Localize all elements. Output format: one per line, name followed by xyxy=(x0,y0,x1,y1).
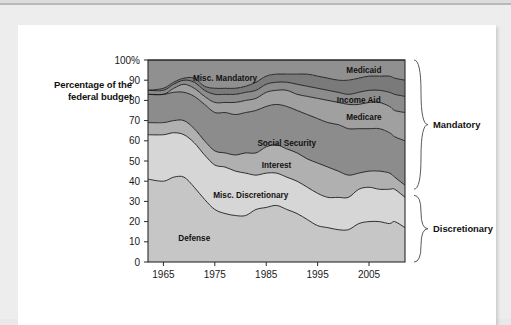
y-tick-label: 70 xyxy=(129,115,141,126)
y-tick-label: 100% xyxy=(114,55,140,66)
brace-label-mandatory: Mandatory xyxy=(433,119,481,130)
stacked-area-chart: 0102030405060708090100% 1965197519851995… xyxy=(18,25,496,325)
y-tick-label: 90 xyxy=(129,75,141,86)
brace-mandatory xyxy=(414,60,428,189)
y-tick-label: 60 xyxy=(129,135,141,146)
y-tick-label: 30 xyxy=(129,196,141,207)
series-label-interest: Interest xyxy=(262,161,292,170)
series-label-income-aid: Income Aid xyxy=(337,96,381,105)
series-label-defense: Defense xyxy=(178,234,210,243)
x-axis: 19651975198519952005 xyxy=(152,262,380,280)
y-tick-label: 10 xyxy=(129,236,141,247)
y-tick-label: 80 xyxy=(129,95,141,106)
figure-card: Percentage of the federal budget 0102030… xyxy=(18,25,496,325)
series-label-medicare: Medicare xyxy=(346,113,382,122)
y-tick-label: 40 xyxy=(129,176,141,187)
series-label-misc-mandatory: Misc. Mandatory xyxy=(193,74,258,83)
y-tick-label: 50 xyxy=(129,156,141,167)
series-label-social-security: Social Security xyxy=(257,139,316,148)
brace-label-discretionary: Discretionary xyxy=(433,223,494,234)
y-axis: 0102030405060708090100% xyxy=(114,55,148,268)
x-tick-label: 1965 xyxy=(152,269,175,280)
group-braces: MandatoryDiscretionary xyxy=(414,60,494,262)
x-tick-label: 1975 xyxy=(204,269,227,280)
series-label-medicaid: Medicaid xyxy=(346,66,381,75)
x-tick-label: 1985 xyxy=(255,269,278,280)
y-tick-label: 0 xyxy=(134,257,140,268)
brace-discretionary xyxy=(414,195,428,262)
y-tick-label: 20 xyxy=(129,216,141,227)
x-tick-label: 2005 xyxy=(358,269,381,280)
series-label-misc-discretionary: Misc. Discretionary xyxy=(213,191,289,200)
x-tick-label: 1995 xyxy=(306,269,329,280)
